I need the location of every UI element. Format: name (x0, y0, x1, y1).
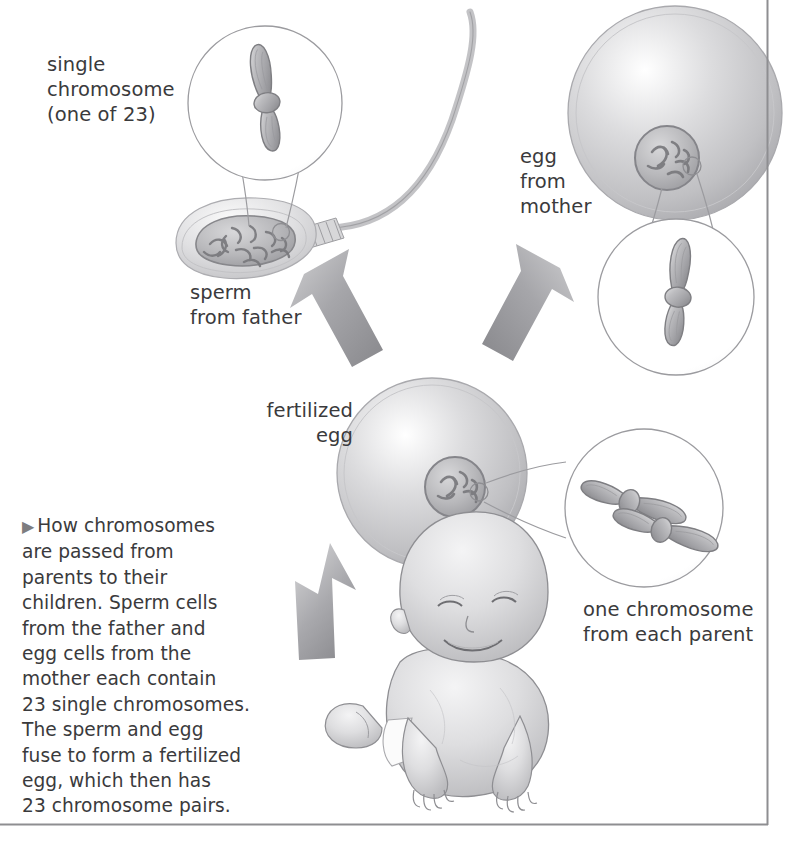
caption-line: children. Sperm cells (22, 590, 254, 615)
caption-line: egg cells from the (22, 641, 254, 666)
caption-line: parents to their (22, 565, 254, 590)
label-one-chromosome-from-each-parent: one chromosome from each parent (583, 597, 754, 647)
caption-line: fuse to form a fertilized (22, 743, 254, 768)
caption-line: How chromosomes (37, 515, 215, 536)
caption-line: from the father and (22, 616, 254, 641)
caption-marker-icon: ▶ (22, 517, 34, 536)
caption-line: are passed from (22, 539, 254, 564)
figure-page: single chromosome (one of 23) egg from m… (0, 0, 799, 865)
figure-caption: ▶How chromosomesare passed fromparents t… (22, 513, 254, 819)
arrow-fertilized-egg-to-baby (295, 543, 356, 660)
caption-line: mother each contain (22, 666, 254, 691)
baby-illustration (325, 512, 548, 812)
single-chromosome-magnifier (188, 26, 342, 180)
caption-line: 23 chromosome pairs. (22, 793, 254, 818)
label-fertilized-egg: fertilized egg (243, 398, 353, 448)
caption-line: 23 single chromosomes. (22, 692, 254, 717)
arrow-sperm-to-fertilized-egg (290, 249, 383, 367)
chromosome-pair-magnifier (565, 429, 723, 587)
label-egg-from-mother: egg from mother (520, 144, 592, 219)
arrow-egg-to-fertilized-egg (482, 244, 574, 361)
label-single-chromosome: single chromosome (one of 23) (47, 52, 175, 127)
caption-line: egg, which then has (22, 768, 254, 793)
caption-line: The sperm and egg (22, 717, 254, 742)
egg-chromosome-magnifier (598, 219, 754, 375)
label-sperm-from-father: sperm from father (190, 280, 302, 330)
caption-text: How chromosomesare passed fromparents to… (22, 515, 254, 819)
